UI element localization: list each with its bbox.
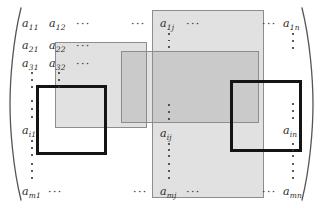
hdots-rowm-d: ···	[262, 187, 277, 198]
matrix-left-bracket	[8, 6, 24, 202]
matrix-entry-a-m-1: am1	[22, 186, 40, 197]
matrix-entry-a-2-2: a22	[49, 40, 65, 51]
hdots-row1-d: ···	[262, 19, 277, 30]
matrix-entry-a-3-1: a31	[22, 58, 38, 69]
hdots-row2: ···	[76, 41, 91, 52]
vdots-coln-mid	[290, 103, 296, 119]
hdots-rowm-b: ···	[133, 187, 148, 198]
block-outline-left	[36, 85, 107, 155]
hdots-row1-c: ···	[186, 19, 201, 30]
vdots-colj-lower	[166, 143, 172, 157]
vdots-col1-upper	[29, 72, 35, 88]
matrix-entry-a-2-1: a21	[22, 40, 38, 51]
vdots-coln-bottom	[290, 163, 296, 179]
hdots-rowm-c: ···	[186, 187, 201, 198]
vdots-colj-mid	[166, 104, 172, 120]
hdots-row1-b: ···	[131, 19, 146, 30]
vdots-col1-mid	[29, 100, 35, 118]
vdots-col2-upper	[56, 72, 62, 88]
vdots-colj-upper	[166, 33, 172, 48]
matrix-entry-a-1-1: a11	[22, 18, 38, 29]
matrix-entry-a-i-j: aij	[160, 128, 171, 139]
matrix-entry-a-3-2: a32	[49, 58, 65, 69]
matrix-entry-a-i-n: ain	[283, 125, 297, 136]
matrix-entry-a-1-2: a12	[49, 18, 65, 29]
matrix-entry-a-m-j: amj	[160, 186, 176, 197]
hdots-row3: ···	[76, 59, 91, 70]
vdots-col1-lower	[29, 140, 35, 156]
matrix-diagram-figure: a11a12a1ja1na21a22a31a32ai1aijainam1amja…	[0, 0, 323, 208]
matrix-entry-a-1-n: a1n	[283, 18, 299, 29]
hdots-rowm-a: ···	[48, 187, 63, 198]
vdots-colj-bottom	[166, 163, 172, 179]
matrix-entry-a-m-n: amn	[283, 186, 302, 197]
hdots-row1-a: ···	[76, 19, 91, 30]
matrix-entry-a-1-j: a1j	[160, 18, 174, 29]
vdots-coln-upper	[290, 33, 296, 49]
vdots-coln-lower	[290, 143, 296, 157]
vdots-col1-bottom	[29, 163, 35, 179]
matrix-entry-a-i-1: ai1	[22, 125, 36, 136]
